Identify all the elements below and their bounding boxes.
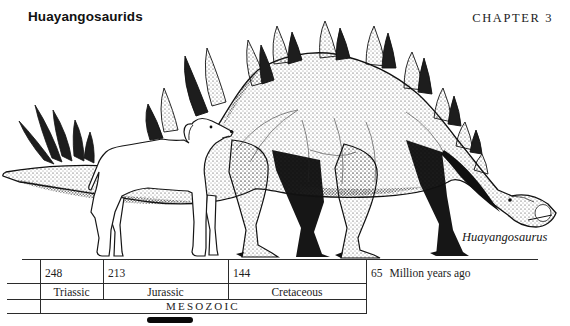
boundary-65: 65 Million years ago — [371, 263, 471, 283]
scale-bar — [147, 317, 193, 323]
mya-unit-label: Million years ago — [390, 267, 471, 279]
boundary-144: 144 — [233, 263, 250, 283]
dinosaur-group — [3, 21, 556, 258]
dog-far-front-leg — [206, 195, 218, 255]
near-front-leg — [335, 144, 380, 258]
tick-65 — [366, 259, 367, 314]
boundary-248: 248 — [45, 263, 62, 283]
dog-nose — [230, 130, 233, 133]
timeline-line-3 — [7, 313, 367, 314]
book-page: Huayangosaurids CHAPTER 3 — [0, 0, 570, 326]
boundary-213: 213 — [108, 263, 125, 283]
era-mesozoic: MESOZOIC — [40, 299, 366, 313]
dog-eye — [210, 126, 213, 129]
species-label: Huayangosaurus — [462, 230, 552, 245]
tail-spikes — [19, 105, 94, 164]
period-cretaceous: Cretaceous — [228, 284, 366, 299]
boundary-65-value: 65 — [371, 267, 383, 279]
period-jurassic: Jurassic — [103, 284, 228, 299]
period-triassic: Triassic — [40, 284, 103, 299]
ground-line — [22, 259, 538, 260]
huayangosaurus-illustration — [0, 0, 570, 326]
